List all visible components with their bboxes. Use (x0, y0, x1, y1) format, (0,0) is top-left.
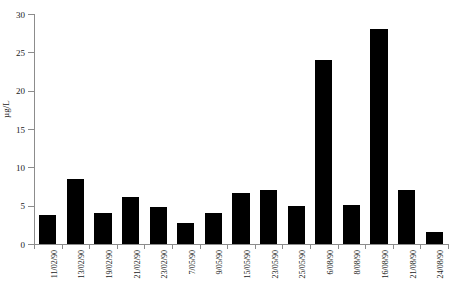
x-axis-tick-label: 6/08/90 (327, 250, 335, 274)
x-axis-tick-label: 24/08/90 (437, 250, 445, 278)
bar (39, 215, 56, 244)
x-axis-tick-label: 21/02/90 (134, 250, 142, 278)
x-axis-tick-label-text: 8/08/90 (354, 250, 362, 274)
x-axis-tick-label-text: 11/02/90 (51, 250, 59, 278)
x-axis-tick (338, 244, 339, 249)
y-axis-tick-label: 15 (16, 125, 25, 134)
bar (94, 213, 111, 244)
bar (343, 205, 360, 244)
x-axis-tick-label: 7/05/90 (189, 250, 197, 274)
x-axis-tick-label-text: 25/05/90 (299, 250, 307, 278)
bar (288, 206, 305, 244)
bar (205, 213, 222, 244)
x-axis-tick-label-text: 21/02/90 (134, 250, 142, 278)
x-axis-tick-label: 19/02/90 (106, 250, 114, 278)
x-axis-tick (200, 244, 201, 249)
x-axis-tick (255, 244, 256, 249)
x-axis-tick (227, 244, 228, 249)
y-axis-tick-label: 25 (16, 48, 25, 57)
x-axis-tick (34, 244, 35, 249)
x-axis-tick (365, 244, 366, 249)
bar (232, 193, 249, 244)
x-axis-tick (144, 244, 145, 249)
x-axis-tick-label-text: 19/02/90 (106, 250, 114, 278)
x-axis-tick-label: 21/08/90 (410, 250, 418, 278)
x-axis-tick-label-text: 13/02/90 (78, 250, 86, 278)
bar (315, 60, 332, 244)
bar (398, 190, 415, 244)
x-axis-tick-label-text: 24/08/90 (437, 250, 445, 278)
x-axis-tick-label: 13/02/90 (78, 250, 86, 278)
x-axis-tick-label-text: 7/05/90 (189, 250, 197, 274)
x-axis-tick (172, 244, 173, 249)
x-axis-tick (448, 244, 449, 249)
bars-layer (34, 14, 448, 244)
x-axis-tick-label-text: 9/05/90 (216, 250, 224, 274)
bar (260, 190, 277, 244)
bar (370, 29, 387, 244)
y-axis-tick-label: 30 (16, 10, 25, 19)
bar (122, 197, 139, 244)
x-axis-tick-label-text: 16/08/90 (382, 250, 390, 278)
x-axis-line (34, 244, 448, 245)
x-axis-tick-label: 23/05/90 (272, 250, 280, 278)
x-axis-tick-label-text: 15/05/90 (244, 250, 252, 278)
x-axis-tick-label-text: 23/02/90 (161, 250, 169, 278)
x-axis-tick-label: 23/02/90 (161, 250, 169, 278)
x-axis-tick (282, 244, 283, 249)
x-axis-tick-label: 15/05/90 (244, 250, 252, 278)
x-axis-tick (62, 244, 63, 249)
x-axis-tick-label-text: 6/08/90 (327, 250, 335, 274)
y-axis-title: µg/L (2, 100, 11, 118)
x-axis-tick-label: 8/08/90 (354, 250, 362, 274)
x-axis-tick (393, 244, 394, 249)
x-axis-tick-label: 16/08/90 (382, 250, 390, 278)
bar (67, 179, 84, 244)
x-axis-tick (117, 244, 118, 249)
x-axis-tick-label-text: 21/08/90 (410, 250, 418, 278)
x-axis-tick (89, 244, 90, 249)
x-axis-tick-label: 11/02/90 (51, 250, 59, 278)
y-axis-tick-label: 5 (21, 202, 26, 211)
bar (177, 223, 194, 244)
y-axis-tick-label: 0 (21, 240, 26, 249)
bar (426, 232, 443, 244)
bar (150, 207, 167, 244)
x-axis-tick-label: 9/05/90 (216, 250, 224, 274)
x-axis-tick (310, 244, 311, 249)
x-axis-tick (420, 244, 421, 249)
bar-chart: µg/L 051015202530 11/02/9013/02/9019/02/… (0, 0, 454, 303)
y-axis-tick-label: 20 (16, 87, 25, 96)
x-axis-labels: 11/02/9013/02/9019/02/9021/02/9023/02/90… (34, 250, 448, 303)
x-axis-tick-label: 25/05/90 (299, 250, 307, 278)
x-axis-tick-label-text: 23/05/90 (272, 250, 280, 278)
y-axis-tick-label: 10 (16, 163, 25, 172)
